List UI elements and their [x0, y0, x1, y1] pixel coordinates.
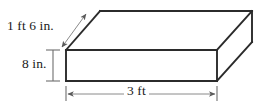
width-label: 3 ft [124, 84, 149, 98]
prism-figure: 1 ft 6 in. 8 in. 3 ft [0, 0, 267, 108]
front-face [66, 50, 217, 81]
depth-label: 1 ft 6 in. [7, 19, 54, 33]
height-dimension [46, 50, 60, 81]
prism-faces [66, 11, 252, 81]
height-label: 8 in. [22, 57, 47, 71]
